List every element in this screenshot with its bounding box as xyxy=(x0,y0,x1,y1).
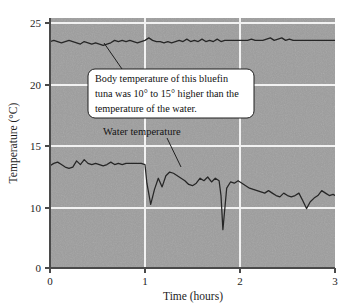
y-tick-label-10: 10 xyxy=(30,202,42,214)
y-axis-ticks xyxy=(45,23,50,268)
callout-line-1: Body temperature of this bluefin xyxy=(95,73,228,84)
callout-line-3: temperature of the water. xyxy=(95,103,197,114)
x-tick-label-2: 2 xyxy=(237,275,243,287)
plot-area-background xyxy=(50,18,335,268)
y-tick-label-0: 0 xyxy=(36,262,42,274)
y-tick-label-20: 20 xyxy=(30,79,42,91)
temperature-time-chart: 25 20 15 10 0 0 1 2 3 Time (hours) Tempe… xyxy=(0,0,355,304)
y-axis-tick-labels: 25 20 15 10 0 xyxy=(30,17,42,274)
series-label-water-temperature: Water temperature xyxy=(103,126,181,137)
body-temp-callout: Body temperature of this bluefin tuna wa… xyxy=(88,69,254,118)
x-tick-label-1: 1 xyxy=(142,275,148,287)
callout-line-2: tuna was 10° to 15° higher than the xyxy=(95,88,239,99)
y-tick-label-25: 25 xyxy=(30,17,42,29)
x-axis-ticks xyxy=(50,268,335,273)
x-tick-label-0: 0 xyxy=(47,275,53,287)
x-tick-label-3: 3 xyxy=(332,275,338,287)
x-axis-title: Time (hours) xyxy=(163,290,223,303)
figure-container: 25 20 15 10 0 0 1 2 3 Time (hours) Tempe… xyxy=(0,0,355,304)
x-axis-tick-labels: 0 1 2 3 xyxy=(47,275,338,287)
y-tick-label-15: 15 xyxy=(30,140,42,152)
y-axis-title: Temperature (°C) xyxy=(7,102,20,183)
